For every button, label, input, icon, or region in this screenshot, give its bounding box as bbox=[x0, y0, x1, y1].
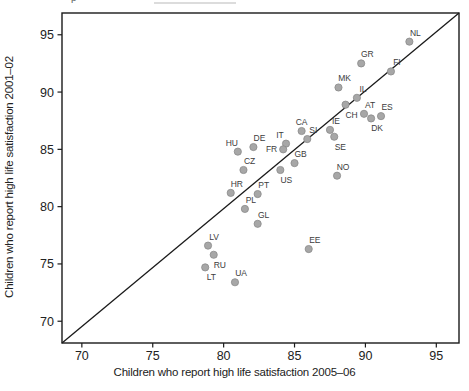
point-label-LV: LV bbox=[209, 232, 219, 242]
data-point-HU bbox=[234, 148, 241, 155]
data-point-FI bbox=[387, 68, 394, 75]
data-point-AT bbox=[360, 110, 367, 117]
point-label-DE: DE bbox=[254, 133, 266, 143]
x-tick-label: 90 bbox=[358, 349, 372, 363]
point-label-HU: HU bbox=[226, 138, 238, 148]
data-point-IE bbox=[326, 126, 333, 133]
data-point-UA bbox=[231, 279, 238, 286]
data-point-MK bbox=[335, 84, 342, 91]
data-point-HR bbox=[227, 189, 234, 196]
point-label-CZ: CZ bbox=[244, 156, 255, 166]
data-point-GB bbox=[291, 160, 298, 167]
point-label-DK: DK bbox=[371, 123, 383, 133]
data-point-US bbox=[277, 166, 284, 173]
data-point-DE bbox=[250, 143, 257, 150]
point-label-IT: IT bbox=[276, 130, 283, 140]
x-axis-title: Children who report high life satisfacti… bbox=[0, 366, 469, 378]
point-label-EE: EE bbox=[309, 235, 321, 245]
data-point-LV bbox=[204, 242, 211, 249]
data-point-SE bbox=[331, 133, 338, 140]
point-label-IL: IL bbox=[359, 84, 366, 94]
data-point-CA bbox=[298, 127, 305, 134]
point-label-GR: GR bbox=[361, 49, 374, 59]
point-label-IE: IE bbox=[332, 116, 340, 126]
x-tick-label: 70 bbox=[75, 349, 89, 363]
data-point-FR bbox=[280, 146, 287, 153]
data-point-NO bbox=[333, 172, 340, 179]
point-label-ES: ES bbox=[381, 102, 393, 112]
point-label-FI: FI bbox=[393, 57, 400, 67]
point-label-US: US bbox=[281, 175, 293, 185]
data-point-GL bbox=[254, 220, 261, 227]
y-tick-label: 80 bbox=[40, 200, 54, 214]
point-label-AT: AT bbox=[365, 100, 375, 110]
point-label-CH: CH bbox=[346, 110, 358, 120]
data-point-IL bbox=[353, 94, 360, 101]
scatter-figure: p 707580859095707580859095NLGRFIMKILCHAT… bbox=[0, 0, 469, 391]
y-tick-label: 75 bbox=[40, 257, 54, 271]
x-tick-label: 95 bbox=[429, 349, 443, 363]
x-tick-label: 80 bbox=[217, 349, 231, 363]
y-tick-label: 70 bbox=[40, 315, 54, 329]
data-point-PL bbox=[241, 205, 248, 212]
y-tick-label: 95 bbox=[40, 28, 54, 42]
point-label-UA: UA bbox=[235, 268, 247, 278]
y-tick-label: 90 bbox=[40, 86, 54, 100]
x-tick-label: 75 bbox=[146, 349, 160, 363]
data-point-NL bbox=[406, 38, 413, 45]
x-tick-label: 85 bbox=[288, 349, 302, 363]
y-tick-label: 85 bbox=[40, 143, 54, 157]
data-point-CZ bbox=[240, 166, 247, 173]
point-label-CA: CA bbox=[296, 117, 308, 127]
point-label-NO: NO bbox=[337, 162, 350, 172]
data-point-ES bbox=[377, 113, 384, 120]
point-label-MK: MK bbox=[338, 73, 351, 83]
data-point-CH bbox=[342, 101, 349, 108]
point-label-LT: LT bbox=[207, 272, 216, 282]
y-axis-title: Children who report high life satisfacti… bbox=[3, 17, 15, 337]
point-label-RU: RU bbox=[214, 260, 226, 270]
data-point-DK bbox=[367, 115, 374, 122]
point-label-SE: SE bbox=[335, 142, 347, 152]
data-point-GR bbox=[358, 60, 365, 67]
data-point-RU bbox=[210, 251, 217, 258]
point-label-SI: SI bbox=[309, 125, 317, 135]
point-label-NL: NL bbox=[410, 28, 421, 38]
data-point-SI bbox=[304, 135, 311, 142]
data-point-EE bbox=[305, 245, 312, 252]
point-label-GB: GB bbox=[294, 149, 307, 159]
point-label-FR: FR bbox=[266, 144, 277, 154]
scatter-plot: 707580859095707580859095NLGRFIMKILCHATES… bbox=[0, 0, 469, 391]
data-point-LT bbox=[202, 264, 209, 271]
point-label-PL: PL bbox=[246, 195, 257, 205]
point-label-HR: HR bbox=[231, 179, 243, 189]
point-label-GL: GL bbox=[258, 210, 270, 220]
point-label-PT: PT bbox=[258, 180, 269, 190]
